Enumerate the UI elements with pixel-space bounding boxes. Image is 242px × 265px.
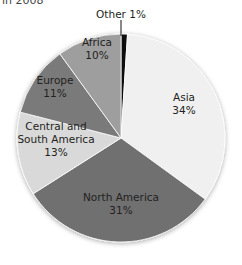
slice-label-asia: Asia34% xyxy=(172,91,195,117)
slice-label-africa: Africa10% xyxy=(82,36,112,62)
slice-label-north-america: North America31% xyxy=(83,191,159,217)
slice-label-europe: Europe11% xyxy=(37,74,74,100)
slice-label-central-south-america: Central andSouth America13% xyxy=(17,120,94,159)
slice-label-other: Other 1% xyxy=(96,8,146,21)
